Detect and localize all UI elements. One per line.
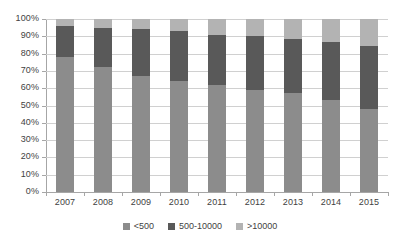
bar-segment[interactable] (322, 42, 340, 101)
y-axis-tick-label: 50% (21, 101, 39, 110)
bar-segment[interactable] (284, 93, 302, 192)
bar-segment[interactable] (56, 19, 74, 26)
stacked-bar[interactable] (132, 19, 150, 192)
bar-segment[interactable] (208, 19, 226, 35)
bar-slot (84, 19, 122, 192)
bar-segment[interactable] (246, 19, 264, 36)
gridline (46, 192, 388, 193)
bar-segment[interactable] (170, 31, 188, 81)
x-axis-tick-label: 2010 (160, 196, 198, 212)
legend-swatch-icon (236, 223, 243, 230)
x-axis-labels: 200720082009201020112012201320142015 (46, 196, 388, 212)
bar-slot (274, 19, 312, 192)
bar-segment[interactable] (246, 90, 264, 192)
bar-group (46, 19, 388, 192)
stacked-bar[interactable] (246, 19, 264, 192)
bar-segment[interactable] (360, 46, 378, 109)
bar-segment[interactable] (132, 19, 150, 29)
x-axis-tick-label: 2011 (198, 196, 236, 212)
bar-segment[interactable] (208, 85, 226, 192)
bar-segment[interactable] (246, 36, 264, 90)
bar-slot (122, 19, 160, 192)
bar-segment[interactable] (208, 35, 226, 85)
x-axis-tick-label: 2013 (274, 196, 312, 212)
bar-segment[interactable] (56, 57, 74, 192)
x-axis-tick (388, 192, 389, 196)
bar-segment[interactable] (132, 29, 150, 76)
x-axis-tick-label: 2014 (312, 196, 350, 212)
stacked-bar[interactable] (284, 19, 302, 192)
x-axis-tick-label: 2009 (122, 196, 160, 212)
bar-segment[interactable] (132, 76, 150, 192)
legend-item[interactable]: 500-10000 (168, 222, 222, 231)
legend-item[interactable]: <500 (123, 222, 154, 231)
bar-segment[interactable] (94, 28, 112, 68)
legend-swatch-icon (123, 223, 130, 230)
x-axis-tick-label: 2007 (46, 196, 84, 212)
bar-segment[interactable] (56, 26, 74, 57)
stacked-bar[interactable] (322, 19, 340, 192)
y-axis-tick-label: 0% (26, 187, 39, 196)
plot-area (46, 19, 388, 192)
bar-slot (350, 19, 388, 192)
legend-item[interactable]: >10000 (236, 222, 277, 231)
bar-segment[interactable] (170, 19, 188, 31)
bar-segment[interactable] (360, 19, 378, 46)
legend-label: <500 (134, 222, 154, 231)
bar-slot (46, 19, 84, 192)
bar-segment[interactable] (94, 19, 112, 28)
y-axis-tick-label: 30% (21, 135, 39, 144)
legend-label: 500-10000 (179, 222, 222, 231)
bar-segment[interactable] (360, 109, 378, 192)
y-axis-tick-label: 60% (21, 83, 39, 92)
stacked-bar[interactable] (170, 19, 188, 192)
chart-legend: <500500-10000>10000 (0, 222, 400, 231)
bar-slot (198, 19, 236, 192)
y-axis-tick-label: 100% (16, 14, 39, 23)
y-axis-tick-label: 80% (21, 49, 39, 58)
bar-slot (236, 19, 274, 192)
stacked-bar[interactable] (94, 19, 112, 192)
y-axis-tick-label: 70% (21, 66, 39, 75)
stacked-bar[interactable] (56, 19, 74, 192)
x-axis-tick-label: 2012 (236, 196, 274, 212)
bar-slot (312, 19, 350, 192)
bar-segment[interactable] (322, 100, 340, 192)
bar-slot (160, 19, 198, 192)
bar-segment[interactable] (284, 19, 302, 39)
x-axis-tick-label: 2008 (84, 196, 122, 212)
bar-segment[interactable] (284, 39, 302, 93)
stacked-bar-chart: 0%10%20%30%40%50%60%70%80%90%100% 200720… (0, 0, 400, 249)
y-axis-tick-label: 40% (21, 118, 39, 127)
bar-segment[interactable] (94, 67, 112, 192)
stacked-bar[interactable] (360, 19, 378, 192)
legend-label: >10000 (247, 222, 277, 231)
y-axis-tick-label: 20% (21, 152, 39, 161)
bar-segment[interactable] (170, 81, 188, 192)
bar-segment[interactable] (322, 19, 340, 41)
y-axis-tick-label: 10% (21, 170, 39, 179)
x-axis-tick-label: 2015 (350, 196, 388, 212)
stacked-bar[interactable] (208, 19, 226, 192)
y-axis: 0%10%20%30%40%50%60%70%80%90%100% (0, 0, 44, 211)
y-axis-tick-label: 90% (21, 31, 39, 40)
legend-swatch-icon (168, 223, 175, 230)
